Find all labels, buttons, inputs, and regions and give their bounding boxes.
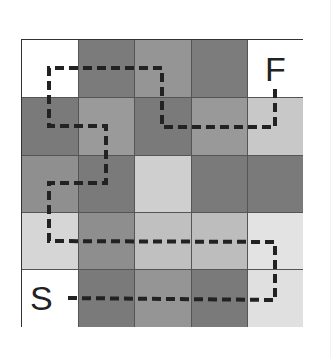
grid-cell [79,40,135,98]
finish-label: F [265,52,286,86]
grid-cell [22,213,79,270]
grid-cell [192,40,248,98]
grid-cell [192,98,248,156]
grid-cell [192,213,248,270]
grid-cell [22,98,79,156]
grid-cell [192,156,248,213]
maze-grid [21,39,303,327]
grid-cell [135,213,192,270]
grid-cell [248,156,303,213]
grid-cell [248,213,303,270]
edge-line [330,0,331,358]
grid-cell [135,156,192,213]
grid-cell [135,270,192,327]
grid-cell [135,40,192,98]
grid-cell [22,156,79,213]
grid-cell [79,213,135,270]
grid-cell [22,40,79,98]
grid-cell [135,98,192,156]
grid-cell [79,156,135,213]
grid-cell [248,98,303,156]
start-label: S [30,281,53,315]
grid-cell [79,98,135,156]
grid-cell [79,270,135,327]
grid-cell [192,270,248,327]
grid-cell [248,270,303,327]
